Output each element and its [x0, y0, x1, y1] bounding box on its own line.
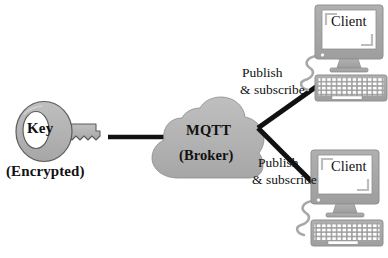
edge-label-publish-top: Publish	[240, 64, 305, 81]
edge-label-subscribe-top: & subscribe	[240, 81, 305, 98]
broker-node-sublabel: (Broker)	[179, 148, 234, 163]
edge-label-publish-bottom: Publish	[252, 154, 317, 171]
diagram-canvas: Key (Encrypted) MQTT (Broker) Publish & …	[0, 0, 388, 258]
client-top-label: Client	[331, 13, 366, 30]
edge-label-subscribe-bottom: & subscribe	[252, 171, 317, 188]
client-bottom-label: Client	[331, 158, 366, 175]
edge-label-publish-subscribe-top: Publish & subscribe	[240, 64, 305, 99]
broker-node-label: MQTT	[186, 123, 231, 138]
key-node-sublabel: (Encrypted)	[6, 164, 85, 180]
edge-label-publish-subscribe-bottom: Publish & subscribe	[252, 154, 317, 189]
key-node-label: Key	[27, 121, 53, 137]
